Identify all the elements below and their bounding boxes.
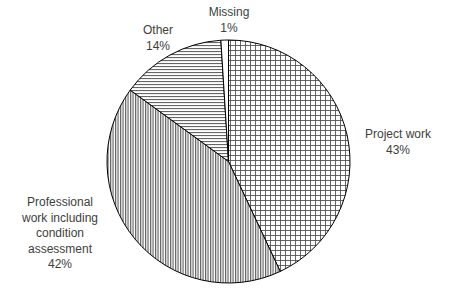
label-professional-line-3: condition: [5, 226, 115, 242]
label-missing-pct: 1%: [199, 21, 259, 37]
label-professional-line-2: work including: [5, 211, 115, 227]
label-professional-line-1: Professional: [5, 195, 115, 211]
label-project-name: Project work: [353, 127, 443, 143]
pie-slices: [107, 40, 350, 283]
label-missing: Missing 1%: [199, 5, 259, 36]
label-professional-pct: 42%: [5, 257, 115, 273]
label-project-work: Project work 43%: [353, 127, 443, 158]
label-other-name: Other: [128, 23, 188, 39]
label-other: Other 14%: [128, 23, 188, 54]
label-professional-work: Professional work including condition as…: [5, 195, 115, 273]
label-other-pct: 14%: [128, 39, 188, 55]
label-missing-name: Missing: [199, 5, 259, 21]
label-project-pct: 43%: [353, 143, 443, 159]
label-professional-line-4: assessment: [5, 242, 115, 258]
